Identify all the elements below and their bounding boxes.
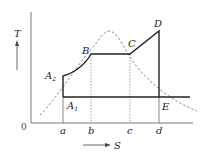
point-d-label: D <box>153 18 162 29</box>
tick-a: a <box>60 125 66 136</box>
point-b-label: B <box>81 45 89 56</box>
cycle-path <box>63 31 159 97</box>
point-a2-label: A2 <box>44 70 56 82</box>
x-arrow-icon <box>105 143 111 147</box>
tick-c: c <box>127 125 133 136</box>
origin-label: 0 <box>21 122 27 132</box>
ts-diagram: T 0 a b c d S A2 A1 B C D E <box>0 0 207 157</box>
y-axis-label: T <box>14 28 22 39</box>
point-c-label: C <box>128 38 136 49</box>
x-axis-label: S <box>114 140 121 151</box>
y-arrow-icon <box>15 40 19 46</box>
point-a1-label: A1 <box>66 100 78 112</box>
saturation-dome <box>40 31 197 115</box>
point-e-label: E <box>161 101 170 112</box>
tick-d: d <box>156 125 162 136</box>
tick-b: b <box>88 125 94 136</box>
